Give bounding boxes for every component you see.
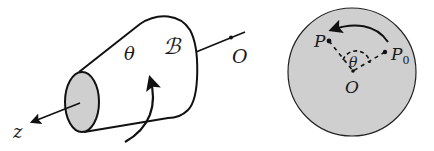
origin-label-left: O bbox=[232, 45, 248, 67]
end-face-ellipse bbox=[65, 72, 99, 132]
point-p0 bbox=[383, 50, 387, 54]
diagram-canvas: ℬ θ O z P P0 θ O bbox=[0, 0, 434, 151]
z-axis-label: z bbox=[12, 121, 23, 142]
body-label: ℬ bbox=[163, 34, 182, 59]
theta-label-right: θ bbox=[349, 54, 358, 70]
rotating-body-figure: ℬ θ O z bbox=[12, 16, 248, 142]
point-p bbox=[327, 39, 332, 44]
rotation-disk-figure: P P0 θ O bbox=[288, 8, 416, 136]
theta-label-left: θ bbox=[124, 43, 135, 64]
origin-point bbox=[229, 36, 233, 40]
origin-label-right: O bbox=[345, 77, 359, 97]
point-p-label: P bbox=[313, 31, 326, 51]
